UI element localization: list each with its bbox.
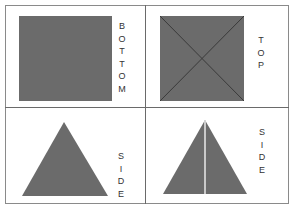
vertical-divider [145, 5, 146, 204]
side-label-right: S I D E [257, 126, 267, 176]
side-triangle-shape [22, 122, 108, 197]
bottom-label: B O T T O M [117, 20, 127, 95]
top-label: T O P [256, 34, 266, 72]
bottom-square-shape [19, 16, 112, 101]
top-square-shape [160, 16, 244, 101]
side-triangle-split-shape [163, 120, 247, 195]
side-label-left: S I D E [116, 150, 126, 200]
horizontal-divider [5, 107, 289, 108]
